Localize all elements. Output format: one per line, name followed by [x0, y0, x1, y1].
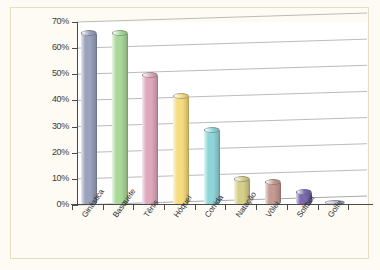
bar-top-cap	[112, 30, 128, 36]
bar-top-cap	[173, 93, 189, 99]
chart-frame: 0%10%20%30%40%50%60%70% GinásticaBasquet…	[10, 7, 369, 259]
y-axis-tick	[72, 153, 78, 154]
chart-card: 0%10%20%30%40%50%60%70% GinásticaBasquet…	[0, 0, 380, 270]
bar-top-cap	[204, 127, 220, 133]
bar	[173, 93, 189, 205]
bars-layer	[77, 22, 367, 205]
bar-top-cap	[81, 30, 97, 36]
y-axis-tick	[72, 100, 78, 101]
bar-body	[112, 33, 128, 205]
bar-body	[81, 33, 97, 205]
y-axis-tick	[72, 179, 78, 180]
category-labels: GinásticaBasqueteTênisHóqueiCorridaNataç…	[11, 208, 380, 268]
y-axis-tick	[72, 74, 78, 75]
y-axis-tick-label: 60%	[31, 42, 69, 52]
y-axis-tick	[72, 127, 78, 128]
y-axis-tick-label: 40%	[31, 94, 69, 104]
y-axis-tick-label: 70%	[31, 16, 69, 26]
bar-top-cap	[142, 72, 158, 78]
gridline	[77, 13, 367, 22]
bar	[81, 30, 97, 205]
y-axis-line	[77, 22, 78, 205]
y-axis-tick	[72, 22, 78, 23]
y-axis-tick-label: 50%	[31, 68, 69, 78]
bar-top-cap	[265, 179, 281, 185]
y-axis-tick-label: 20%	[31, 147, 69, 157]
bar-body	[173, 96, 189, 205]
y-axis-tick	[72, 48, 78, 49]
bar	[112, 30, 128, 205]
bar-body	[142, 75, 158, 205]
bar	[142, 72, 158, 205]
y-axis-tick-label: 10%	[31, 173, 69, 183]
y-axis-tick-label: 30%	[31, 121, 69, 131]
